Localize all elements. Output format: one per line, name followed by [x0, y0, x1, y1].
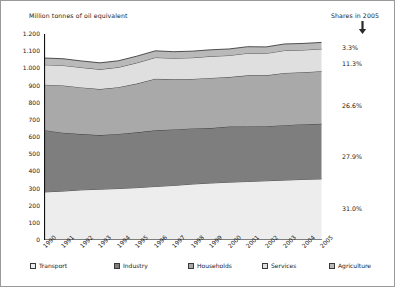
y-tick-label: 1.000	[6, 65, 40, 71]
y-tick-label: 800	[6, 100, 40, 106]
share-label: 31.0%	[342, 206, 362, 212]
shares-heading: Shares in 2005	[331, 12, 379, 19]
legend-label: Services	[271, 263, 296, 269]
chart-figure: Million tonnes of oil equivalent Shares …	[0, 0, 395, 287]
stacked-area-svg	[44, 34, 322, 240]
legend-swatch-services	[262, 263, 268, 269]
legend-label: Households	[197, 263, 232, 269]
chart-legend: TransportIndustryHouseholdsServicesAgric…	[30, 263, 370, 275]
share-label: 11.3%	[342, 61, 362, 67]
legend-item-households[interactable]: Households	[188, 263, 232, 269]
y-tick-label: 600	[6, 134, 40, 140]
y-tick-label: 100	[6, 220, 40, 226]
y-tick-label: 1.100	[6, 48, 40, 54]
legend-swatch-transport	[30, 263, 36, 269]
chart-axis-title: Million tonnes of oil equivalent	[29, 12, 128, 19]
share-label: 3.3%	[342, 45, 358, 51]
legend-swatch-industry	[114, 263, 120, 269]
down-arrow-icon	[358, 21, 367, 34]
y-tick-label: 1.200	[6, 31, 40, 37]
plot-area	[44, 34, 322, 240]
legend-label: Transport	[39, 263, 67, 269]
legend-item-industry[interactable]: Industry	[114, 263, 148, 269]
legend-item-agriculture[interactable]: Agriculture	[329, 263, 371, 269]
y-tick-label: 300	[6, 186, 40, 192]
legend-swatch-households	[188, 263, 194, 269]
y-tick-label: 700	[6, 117, 40, 123]
share-label: 27.9%	[342, 154, 362, 160]
legend-label: Industry	[123, 263, 148, 269]
y-tick-label: 200	[6, 203, 40, 209]
y-tick-label: 0	[6, 237, 40, 243]
y-tick-label: 400	[6, 168, 40, 174]
share-label: 26.6%	[342, 103, 362, 109]
y-tick-label: 500	[6, 151, 40, 157]
legend-item-services[interactable]: Services	[262, 263, 296, 269]
legend-item-transport[interactable]: Transport	[30, 263, 67, 269]
legend-label: Agriculture	[338, 263, 371, 269]
legend-swatch-agriculture	[329, 263, 335, 269]
y-tick-label: 900	[6, 83, 40, 89]
